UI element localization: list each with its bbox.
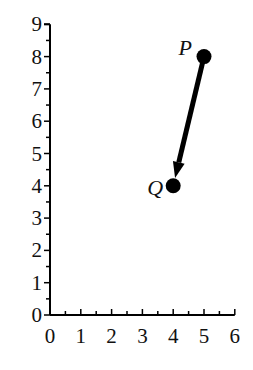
- arrowhead-icon: [173, 161, 185, 178]
- y-tick-label: 1: [32, 271, 43, 295]
- point-label-q: Q: [147, 175, 163, 200]
- x-tick-label: 3: [137, 324, 148, 348]
- point-q: [166, 178, 181, 193]
- y-tick-label: 3: [32, 206, 43, 230]
- data-points: PQ: [147, 35, 211, 200]
- arrow-shaft: [179, 57, 204, 163]
- y-tick-label: 5: [32, 142, 43, 166]
- x-tick-label: 5: [199, 324, 210, 348]
- x-tick-label: 4: [168, 324, 179, 348]
- x-tick-label: 2: [106, 324, 117, 348]
- y-tick-label: 8: [32, 45, 43, 69]
- coordinate-plot: 01234560123456789 PQ: [0, 0, 253, 370]
- y-tick-label: 2: [32, 238, 43, 262]
- y-tick-label: 4: [32, 174, 43, 198]
- x-tick-label: 1: [76, 324, 87, 348]
- y-tick-label: 7: [32, 77, 43, 101]
- y-tick-label: 0: [32, 303, 43, 327]
- point-label-p: P: [178, 35, 192, 60]
- x-tick-label: 0: [45, 324, 56, 348]
- vector-arrow-p-to-q: [173, 57, 204, 178]
- y-tick-label: 6: [32, 109, 43, 133]
- tick-labels: 01234560123456789: [32, 12, 241, 348]
- y-tick-label: 9: [32, 12, 43, 36]
- axes: [44, 24, 235, 315]
- axis-ticks: [44, 24, 235, 315]
- x-tick-label: 6: [230, 324, 241, 348]
- point-p: [197, 49, 212, 64]
